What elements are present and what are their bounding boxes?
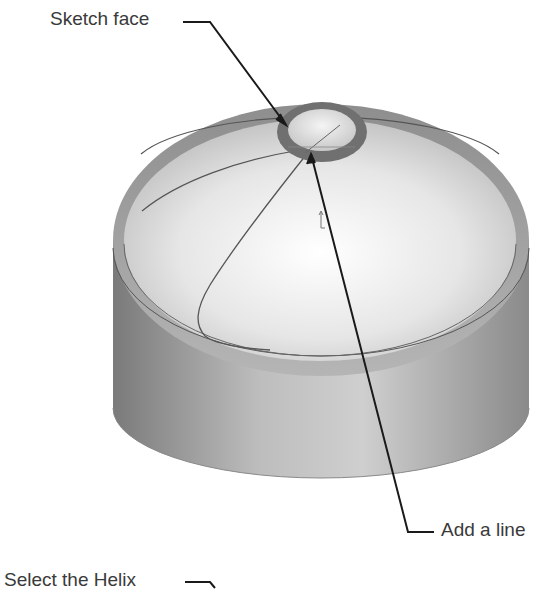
sketch-face[interactable] [277,102,367,162]
callout-add-a-line: Add a line [441,519,526,541]
callout-select-helix: Select the Helix [4,569,136,591]
callout-sketch-face: Sketch face [50,8,149,30]
leader-select-helix [185,582,215,588]
model-illustration [0,0,559,596]
